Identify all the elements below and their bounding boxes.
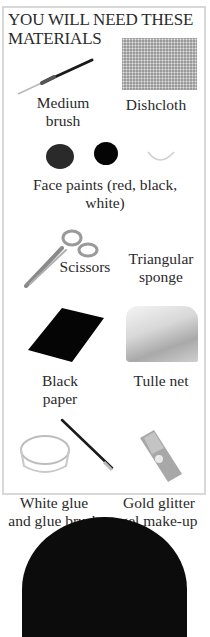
- glue-icon: [18, 418, 114, 482]
- heading-line-1: YOU WILL NEED THESE: [8, 10, 193, 29]
- scissors-icon: [20, 222, 100, 290]
- tulle-icon: [126, 306, 198, 362]
- face-paint-black-icon: [94, 142, 118, 165]
- material-label-face-paints: Face paints (red, black,white): [10, 176, 200, 212]
- material-label-triangular-sponge: Triangularsponge: [118, 250, 204, 286]
- face-paint-white-icon: [146, 148, 176, 166]
- material-label-dishcloth: Dishcloth: [110, 96, 202, 114]
- paintbrush-icon: [14, 56, 96, 98]
- dishcloth-icon: [122, 38, 197, 90]
- material-label-scissors: Scissors: [50, 258, 120, 276]
- material-label-tulle-net: Tulle net: [116, 372, 206, 390]
- glitter-tube-icon: [138, 428, 184, 484]
- paper-icon: [26, 306, 106, 364]
- face-paint-red-icon: [46, 144, 74, 169]
- material-label-medium-brush: Mediumbrush: [28, 94, 98, 130]
- hat-silhouette: [22, 517, 187, 637]
- material-label-black-paper: Blackpaper: [28, 372, 92, 408]
